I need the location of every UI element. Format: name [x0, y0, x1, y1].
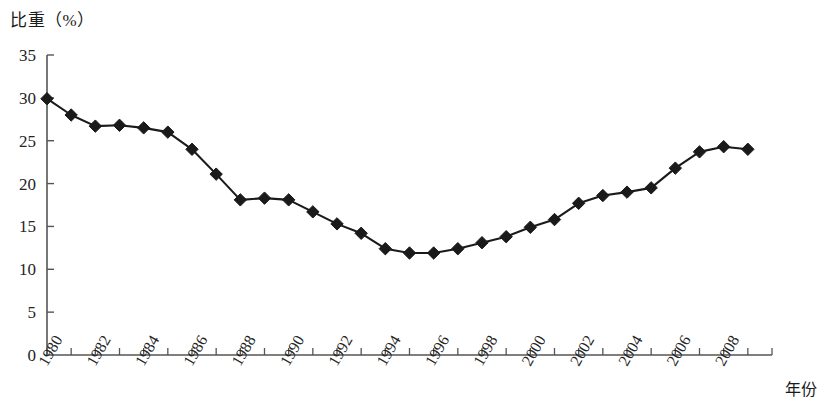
x-axis-tick-label: 2002: [567, 332, 598, 368]
series-line: [47, 99, 748, 253]
x-axis-tick-label: 1984: [132, 332, 163, 368]
data-point-marker: [452, 243, 464, 255]
data-point-marker: [500, 231, 512, 243]
data-point-marker: [113, 119, 125, 131]
y-axis-tick-label: 25: [19, 132, 36, 151]
x-axis-tick-label: 1988: [228, 332, 259, 368]
data-point-marker: [41, 93, 53, 105]
data-point-marker: [355, 227, 367, 239]
x-axis-tick-label: 2004: [615, 332, 646, 368]
data-point-marker: [548, 213, 560, 225]
data-point-marker: [137, 122, 149, 134]
y-axis-tick-label: 35: [19, 46, 36, 65]
data-point-marker: [597, 189, 609, 201]
data-point-marker: [89, 120, 101, 132]
x-axis-tick-label: 1982: [83, 332, 114, 368]
data-point-marker: [331, 218, 343, 230]
data-point-marker: [282, 194, 294, 206]
x-axis-ticks: 1980198219841986198819901992199419961998…: [35, 332, 772, 368]
x-axis-tick-label: 1990: [277, 332, 308, 368]
y-axis-tick-label: 15: [19, 217, 36, 236]
data-point-marker: [717, 141, 729, 153]
x-axis-tick-label: 2000: [518, 332, 549, 368]
data-point-marker: [476, 237, 488, 249]
x-axis-label: 年份: [785, 376, 817, 400]
y-axis-tick-label: 30: [19, 89, 36, 108]
data-point-marker: [742, 143, 754, 155]
data-point-marker: [621, 186, 633, 198]
line-chart-plot: 05101520253035 1980198219841986198819901…: [0, 0, 823, 412]
x-axis-tick-label: 2006: [663, 332, 694, 368]
data-point-marker: [693, 146, 705, 158]
y-axis-tick-label: 5: [28, 303, 37, 322]
data-point-marker: [379, 243, 391, 255]
data-point-marker: [65, 109, 77, 121]
x-axis-tick-label: 2008: [712, 332, 743, 368]
x-axis-tick-label: 1996: [422, 332, 453, 368]
data-point-marker: [403, 247, 415, 259]
x-axis-tick-label: 1998: [470, 332, 501, 368]
x-axis-tick-label: 1986: [180, 332, 211, 368]
data-point-marker: [427, 247, 439, 259]
data-point-marker: [572, 197, 584, 209]
chart-container: 比重（%） 05101520253035 1980198219841986198…: [0, 0, 823, 412]
y-axis-tick-label: 0: [28, 346, 37, 365]
data-point-marker: [307, 206, 319, 218]
chart-axes: [47, 55, 772, 355]
data-series: [41, 93, 754, 260]
data-point-marker: [524, 221, 536, 233]
x-axis-tick-label: 1980: [35, 332, 66, 368]
data-point-marker: [258, 192, 270, 204]
y-axis-tick-label: 10: [19, 260, 36, 279]
x-axis-tick-label: 1992: [325, 332, 356, 368]
x-axis-tick-label: 1994: [373, 332, 404, 368]
y-axis-tick-label: 20: [19, 175, 36, 194]
